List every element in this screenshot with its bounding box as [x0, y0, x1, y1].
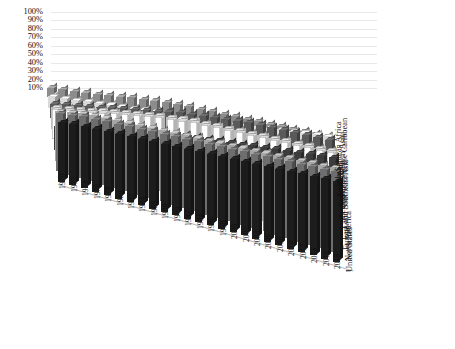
bar: [104, 131, 111, 195]
x-axis-year-label: 2004: [254, 231, 262, 246]
gridline: [51, 88, 377, 89]
bar: [195, 151, 202, 222]
bar: [58, 122, 65, 182]
y-axis-tick-label: 30%: [0, 67, 43, 75]
x-axis-year-label: 1978: [105, 187, 113, 202]
bar-front-face: [310, 176, 317, 256]
bar: [287, 171, 294, 249]
bar-side-face: [76, 119, 79, 183]
x-axis-year-label: 1990: [174, 207, 182, 222]
bar-side-face: [317, 172, 320, 254]
bar-side-face: [305, 169, 308, 250]
y-axis-tick-label: 40%: [0, 59, 43, 67]
bar: [127, 136, 134, 202]
gridline: [51, 63, 377, 64]
bar-side-face: [294, 167, 297, 247]
bar: [275, 169, 282, 246]
y-axis-tick-label: 100%: [0, 8, 43, 16]
x-axis-year-label: 1992: [185, 210, 193, 225]
bar-side-face: [237, 154, 240, 230]
bar-side-face: [225, 152, 228, 227]
x-axis-year-label: 2008: [277, 237, 285, 252]
gridline: [51, 46, 377, 47]
x-axis-year-label: 2016: [323, 251, 331, 266]
bar: [92, 129, 99, 192]
x-axis-year-label: 1982: [128, 194, 136, 209]
bar: [252, 164, 259, 239]
bar-front-face: [184, 149, 191, 219]
bar: [184, 149, 191, 219]
bar-front-face: [138, 139, 145, 206]
bar: [161, 144, 168, 212]
bar-front-face: [252, 164, 259, 239]
bar-front-face: [127, 136, 134, 202]
bar-front-face: [104, 131, 111, 195]
x-axis-year-label: 1984: [139, 197, 147, 212]
y-axis-tick-label: 50%: [0, 50, 43, 58]
gridline: [51, 80, 377, 81]
bar-side-face: [202, 147, 205, 220]
x-axis-year-label: 1970: [59, 174, 67, 189]
bar-front-face: [115, 134, 122, 199]
bar: [298, 173, 305, 252]
gridline: [51, 20, 377, 21]
z-axis-series-label: United States: [346, 227, 354, 272]
chart-canvas: 10%20%30%40%50%60%70%80%90%100%197019721…: [0, 0, 455, 349]
gridline: [51, 12, 377, 13]
bar-side-face: [168, 139, 171, 209]
bar-front-face: [287, 171, 294, 249]
x-axis-year-label: 2018: [334, 254, 342, 269]
bar-front-face: [172, 146, 179, 215]
x-axis-year-label: 1994: [197, 214, 205, 229]
bar: [207, 154, 214, 226]
bar: [138, 139, 145, 206]
bar: [264, 166, 271, 242]
gridline: [51, 54, 377, 55]
bar-side-face: [328, 174, 331, 256]
bar-side-face: [248, 157, 251, 233]
y-axis-tick-label: 80%: [0, 25, 43, 33]
x-axis-year-label: 1974: [82, 180, 90, 195]
bar-side-face: [271, 162, 274, 240]
x-axis-year-label: 1988: [162, 204, 170, 219]
gridline: [51, 71, 377, 72]
bar-front-face: [218, 156, 225, 229]
gridline: [51, 37, 377, 38]
x-axis-year-label: 1972: [71, 177, 79, 192]
x-axis-year-label: 1996: [208, 217, 216, 232]
y-axis-tick-label: 90%: [0, 16, 43, 24]
y-axis-tick-label: 10%: [0, 84, 43, 92]
y-axis-tick-label: 60%: [0, 42, 43, 50]
bar-side-face: [179, 142, 182, 213]
bar-side-face: [191, 144, 194, 216]
bar: [321, 178, 328, 258]
bar-front-face: [92, 129, 99, 192]
x-axis-year-label: 2006: [265, 234, 273, 249]
bar-front-face: [58, 122, 65, 182]
bar-front-face: [149, 141, 156, 209]
bar-side-face: [145, 134, 148, 203]
gridline: [51, 29, 377, 30]
bar: [230, 159, 237, 233]
bar: [115, 134, 122, 199]
x-axis-year-label: 1980: [117, 190, 125, 205]
bar-front-face: [207, 154, 214, 226]
bar-front-face: [161, 144, 168, 212]
bar: [81, 126, 88, 188]
bar: [241, 161, 248, 235]
y-axis-tick-label: 20%: [0, 76, 43, 84]
x-axis-year-label: 2002: [243, 227, 251, 242]
bar: [310, 176, 317, 256]
bar-front-face: [81, 126, 88, 188]
bar: [218, 156, 225, 229]
bar-side-face: [214, 149, 217, 223]
bar-front-face: [195, 151, 202, 222]
x-axis-year-label: 2012: [300, 244, 308, 259]
bar-side-face: [111, 127, 114, 193]
bar-front-face: [298, 173, 305, 252]
y-axis-tick-label: 70%: [0, 33, 43, 41]
bar-front-face: [264, 166, 271, 242]
x-axis-year-label: 2014: [311, 247, 319, 262]
bar-side-face: [99, 124, 102, 189]
x-axis-year-label: 2010: [288, 241, 296, 256]
